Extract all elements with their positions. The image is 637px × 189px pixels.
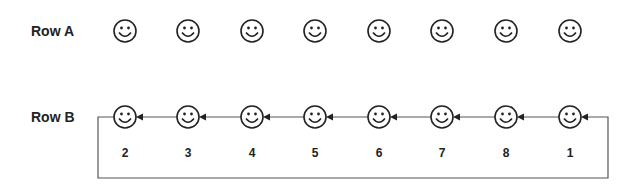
arrowhead-icon [136,114,143,121]
position-number: 6 [369,146,389,160]
smiley-icon [495,106,517,128]
smiley-icon [559,106,581,128]
position-number: 1 [560,146,580,160]
position-number: 7 [432,146,452,160]
smiley-icon [241,20,263,42]
smiley-icon [368,20,390,42]
smiley-icon [304,106,326,128]
smiley-icon [559,20,581,42]
smiley-icon [304,20,326,42]
position-number: 2 [115,146,135,160]
arrowhead-icon [453,114,460,121]
position-number: 4 [242,146,262,160]
arrowhead-icon [263,114,270,121]
smiley-icon [241,106,263,128]
position-number: 3 [178,146,198,160]
smiley-icon [114,20,136,42]
arrowhead-icon [517,114,524,121]
position-number: 5 [305,146,325,160]
smiley-icon [177,20,199,42]
arrowhead-icon [326,114,333,121]
smiley-icon [368,106,390,128]
diagram-canvas [0,0,637,189]
arrowhead-icon [199,114,206,121]
arrowhead-icon [390,114,397,121]
smiley-icon [495,20,517,42]
loop-connector [98,117,608,178]
smiley-icon [431,20,453,42]
arrowhead-icon [581,114,588,121]
smiley-icon [114,106,136,128]
smiley-icon [177,106,199,128]
smiley-icon [431,106,453,128]
position-number: 8 [496,146,516,160]
